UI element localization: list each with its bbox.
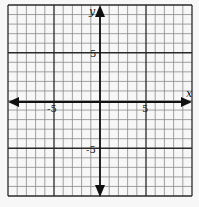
coordinate-plane: x y -5 5 5 -5 (0, 0, 199, 207)
x-neg-tick-label: -5 (47, 103, 57, 114)
y-pos-tick-label: 5 (90, 48, 96, 59)
y-neg-tick-label: -5 (86, 144, 96, 155)
x-axis-label: x (186, 87, 193, 100)
y-axis-label: y (88, 5, 96, 18)
x-pos-tick-label: 5 (142, 103, 148, 114)
